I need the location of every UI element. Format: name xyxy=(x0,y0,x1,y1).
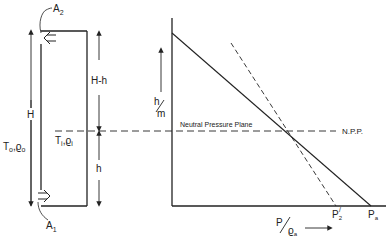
label-lower-height: h xyxy=(96,163,102,174)
label-y-axis: h xyxy=(154,96,160,107)
building xyxy=(41,31,87,206)
label-a2: A2 xyxy=(53,3,64,16)
label-h-total: H xyxy=(27,109,34,120)
label-inside-conditions: Ti,ϱi xyxy=(55,135,73,147)
label-p2-prime: / xyxy=(339,206,341,213)
bottom-opening-arrow-icon xyxy=(38,190,50,202)
label-pa: Pa xyxy=(368,209,379,221)
pressure-line-pa xyxy=(172,33,371,206)
label-a1: A1 xyxy=(46,220,57,233)
a1-leader xyxy=(38,202,48,220)
label-x-axis-den: ϱa xyxy=(288,225,298,237)
label-p2: P2 xyxy=(332,209,343,221)
npp-diagram: A2 A1 H To,ϱo Ti,ϱi H-h h Neutral Pressu… xyxy=(0,0,392,239)
label-outside-conditions: To,ϱo xyxy=(3,141,26,153)
a2-leader xyxy=(40,8,52,33)
top-opening-arrow-icon xyxy=(44,32,56,44)
label-upper-height: H-h xyxy=(91,75,107,86)
label-y-axis-den: m xyxy=(157,108,165,119)
label-x-axis: P xyxy=(276,217,283,228)
label-neutral-pressure-plane: Neutral Pressure Plane xyxy=(180,121,252,128)
label-npp: N.P.P. xyxy=(342,127,363,136)
